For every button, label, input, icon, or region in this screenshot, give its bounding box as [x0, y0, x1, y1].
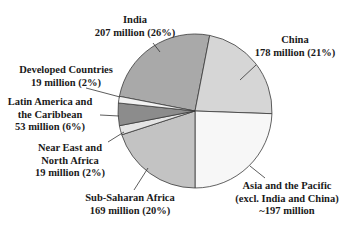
label-ssafrica: Sub-Saharan Africa 169 million (20%) [80, 192, 180, 217]
label-neareast-name-2: North Africa [30, 155, 110, 168]
leader-neareast [108, 132, 124, 142]
label-asia: Asia and the Pacific (excl. India and Ch… [228, 180, 346, 218]
leader-ssafrica [134, 168, 148, 190]
label-neareast-value: 19 million (2%) [30, 167, 110, 180]
label-developed: Developed Countries 19 million (2%) [10, 64, 122, 89]
label-india-name: India [80, 14, 190, 27]
label-ssafrica-value: 169 million (20%) [80, 205, 180, 218]
label-india-value: 207 million (26%) [80, 27, 190, 40]
label-asia-name-2: (excl. India and China) [228, 193, 346, 206]
label-neareast: Near East and North Africa 19 million (2… [30, 142, 110, 180]
label-china: China 178 million (21%) [245, 34, 345, 59]
leader-asia [250, 166, 265, 178]
label-ssafrica-name: Sub-Saharan Africa [80, 192, 180, 205]
label-developed-value: 19 million (2%) [10, 77, 122, 90]
label-china-name: China [245, 34, 345, 47]
label-asia-value: ~197 million [228, 205, 346, 218]
leader-latam [100, 115, 119, 116]
label-latam: Latin America and the Caribbean 53 milli… [0, 96, 100, 134]
label-latam-value: 53 million (6%) [0, 121, 100, 134]
label-latam-name-1: Latin America and [0, 96, 100, 109]
label-developed-name: Developed Countries [10, 64, 122, 77]
label-neareast-name-1: Near East and [30, 142, 110, 155]
label-china-value: 178 million (21%) [245, 47, 345, 60]
label-asia-name-1: Asia and the Pacific [228, 180, 346, 193]
label-latam-name-2: the Caribbean [0, 109, 100, 122]
pie-slice [195, 111, 272, 188]
label-india: India 207 million (26%) [80, 14, 190, 39]
